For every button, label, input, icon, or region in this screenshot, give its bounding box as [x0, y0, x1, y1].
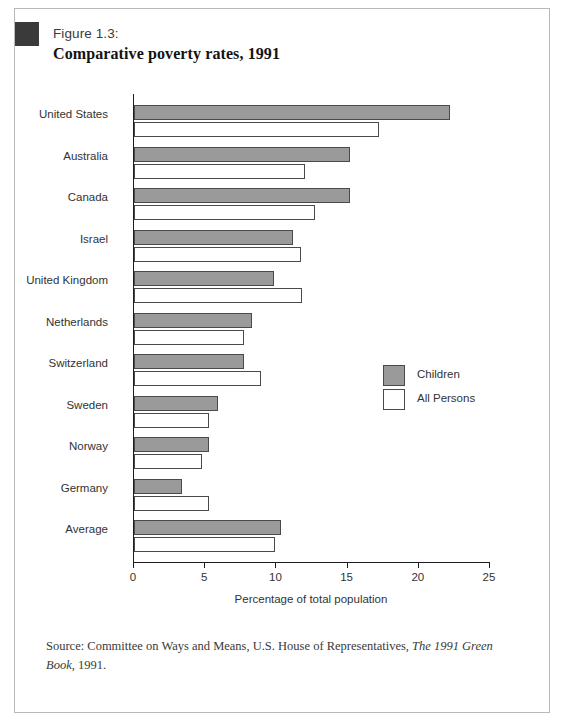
source-suffix: , 1991. [72, 658, 106, 672]
y-axis-category-label: United Kingdom [0, 274, 108, 286]
y-axis-category-label: Australia [0, 150, 108, 162]
x-axis-line [133, 562, 489, 563]
chart-plot-area: 0510152025 United StatesAustraliaCanadaI… [15, 9, 551, 714]
bar-children [134, 188, 350, 203]
bar-all-persons [134, 122, 379, 137]
x-axis-tick-mark [275, 562, 276, 568]
legend-swatch-all-persons-icon [383, 389, 405, 410]
x-axis-tick-mark [418, 562, 419, 568]
bar-children [134, 396, 218, 411]
bar-all-persons [134, 247, 301, 262]
x-axis-tick-mark [133, 562, 134, 568]
bar-all-persons [134, 205, 315, 220]
y-axis-category-label: United States [0, 108, 108, 120]
x-axis-tick-mark [204, 562, 205, 568]
bar-children [134, 437, 209, 452]
bar-children [134, 313, 252, 328]
y-axis-category-label: Sweden [0, 399, 108, 411]
x-axis-tick-label: 20 [398, 571, 438, 583]
y-axis-category-label: Norway [0, 440, 108, 452]
bar-all-persons [134, 288, 302, 303]
bar-children [134, 479, 182, 494]
bar-all-persons [134, 413, 209, 428]
x-axis-tick-label: 5 [184, 571, 224, 583]
bar-all-persons [134, 330, 244, 345]
bar-all-persons [134, 454, 202, 469]
bar-children [134, 520, 281, 535]
x-axis-tick-label: 15 [327, 571, 367, 583]
x-axis-tick-mark [347, 562, 348, 568]
y-axis-category-label: Netherlands [0, 316, 108, 328]
bar-children [134, 105, 450, 120]
y-axis-category-label: Israel [0, 233, 108, 245]
legend-label-children: Children [417, 368, 460, 380]
legend-label-all-persons: All Persons [417, 392, 475, 404]
bar-all-persons [134, 496, 209, 511]
source-prefix: Source: Committee on Ways and Means, U.S… [46, 639, 412, 653]
bar-children [134, 354, 244, 369]
bar-children [134, 271, 274, 286]
legend-swatch-children-icon [383, 365, 405, 386]
y-axis-category-label: Germany [0, 482, 108, 494]
figure-frame: Figure 1.3: Comparative poverty rates, 1… [14, 8, 550, 713]
bar-children [134, 230, 293, 245]
bar-all-persons [134, 537, 275, 552]
bar-children [134, 147, 350, 162]
x-axis-tick-mark [489, 562, 490, 568]
x-axis-tick-label: 10 [255, 571, 295, 583]
y-axis-category-label: Canada [0, 191, 108, 203]
source-note: Source: Committee on Ways and Means, U.S… [46, 637, 508, 676]
y-axis-category-label: Average [0, 523, 108, 535]
bar-all-persons [134, 371, 261, 386]
bar-all-persons [134, 164, 305, 179]
x-axis-tick-label: 25 [469, 571, 509, 583]
x-axis-title: Percentage of total population [133, 593, 489, 605]
y-axis-category-label: Switzerland [0, 357, 108, 369]
x-axis-tick-label: 0 [113, 571, 153, 583]
